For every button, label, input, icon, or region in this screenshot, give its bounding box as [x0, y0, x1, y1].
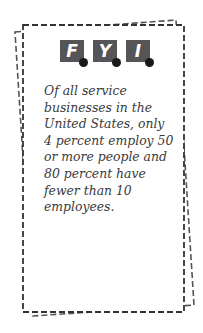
- logo-tile-i: I: [126, 40, 150, 62]
- logo-dot: [79, 58, 88, 67]
- logo-letter: Y: [99, 41, 111, 61]
- fyi-logo: F Y I: [60, 40, 150, 62]
- logo-letter: F: [66, 41, 78, 61]
- logo-tile-y: Y: [93, 40, 117, 62]
- logo-dot: [145, 58, 154, 67]
- logo-letter: I: [135, 41, 141, 61]
- logo-tile-f: F: [60, 40, 84, 62]
- fact-text: Of all service businesses in the United …: [44, 83, 174, 216]
- logo-dot: [112, 58, 121, 67]
